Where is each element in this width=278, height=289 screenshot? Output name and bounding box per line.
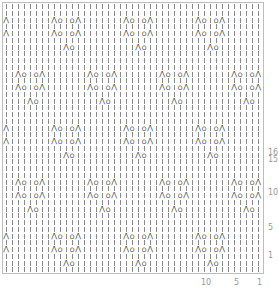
row-number-label: 5 bbox=[268, 224, 273, 232]
column-number-label: 5 bbox=[234, 279, 239, 287]
row-number-label: 1 bbox=[268, 252, 273, 260]
column-number-label: 1 bbox=[257, 279, 262, 287]
knitting-chart-grid: ⋀⋀OO⋀⋀OO⋀⋀OO⋀⋀⋀OO⋀⋀OO⋀⋀OO⋀⋀O⋀O⋀O⋀OO⋀⋀OO⋀… bbox=[2, 2, 264, 274]
row-number-label: 15 bbox=[268, 156, 278, 164]
knit-stitch-cell bbox=[255, 266, 261, 273]
column-number-label: 10 bbox=[201, 279, 211, 287]
row-number-label: 10 bbox=[268, 189, 278, 197]
